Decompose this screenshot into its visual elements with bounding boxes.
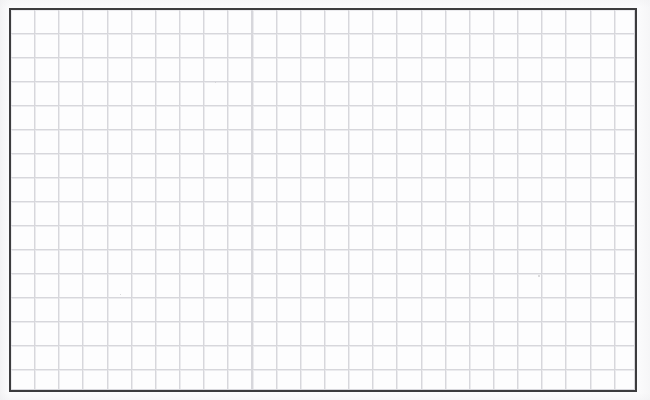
grid-lines [11,10,635,390]
scanned-page [0,0,650,400]
grid-frame-border [9,8,637,392]
